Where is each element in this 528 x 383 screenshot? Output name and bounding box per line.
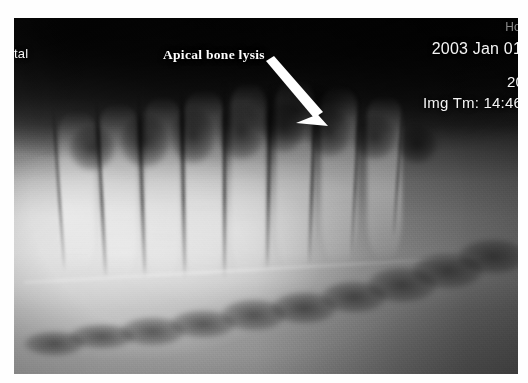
vignette-overlay (14, 18, 518, 374)
page-canvas: tal Ho 2003 Jan 01 20 Img Tm: 14:46 Apic… (0, 0, 528, 383)
overlay-hospital-right: Ho (505, 20, 518, 34)
overlay-year-partial: 20 (507, 73, 518, 90)
overlay-hospital-left: tal (14, 46, 28, 61)
radiograph-image: tal Ho 2003 Jan 01 20 Img Tm: 14:46 Apic… (14, 18, 518, 374)
overlay-image-time: Img Tm: 14:46 (423, 94, 518, 111)
overlay-study-date: 2003 Jan 01 (432, 40, 518, 58)
annotation-label: Apical bone lysis (163, 47, 265, 63)
